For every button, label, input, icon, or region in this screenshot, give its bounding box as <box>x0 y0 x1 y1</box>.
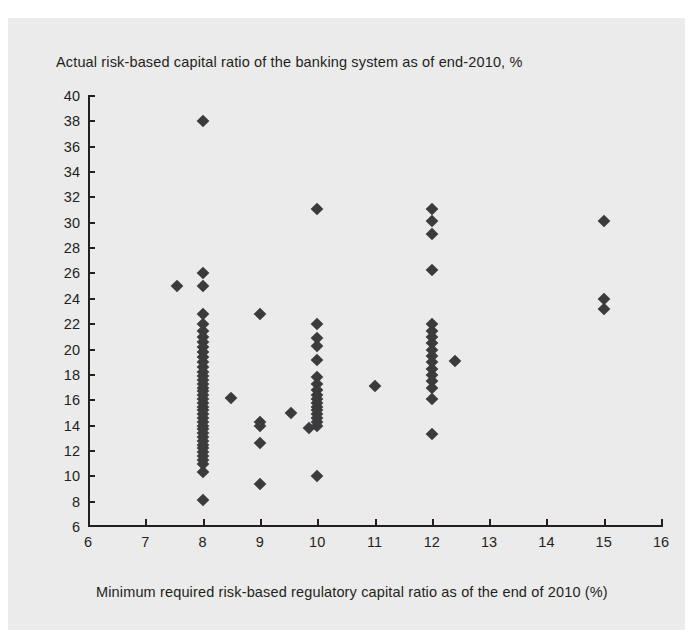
y-tick-label-22: 22 <box>64 316 80 332</box>
y-tick-label-10: 10 <box>64 468 80 484</box>
y-tick-label-24: 24 <box>64 291 80 307</box>
y-tick-label-14: 14 <box>64 418 80 434</box>
x-tick-label-16: 16 <box>653 534 669 550</box>
x-tick-label-10: 10 <box>309 534 325 550</box>
x-tick-label-9: 9 <box>256 534 264 550</box>
figure-root: Actual risk-based capital ratio of the b… <box>0 0 693 639</box>
x-tick-label-11: 11 <box>367 534 382 550</box>
x-tick-label-6: 6 <box>84 534 92 550</box>
y-tick-label-36: 36 <box>64 139 80 155</box>
y-tick-label-30: 30 <box>64 215 80 231</box>
y-tick-label-12: 12 <box>64 443 80 459</box>
y-tick-label-16: 16 <box>64 392 80 408</box>
y-axis-labels: 6810121416182022242628303234363840 <box>36 96 80 527</box>
y-tick-label-32: 32 <box>64 189 80 205</box>
x-tick-mark-16 <box>661 519 663 527</box>
x-tick-label-8: 8 <box>199 534 207 550</box>
x-tick-mark-13 <box>489 519 491 527</box>
y-tick-label-18: 18 <box>64 367 80 383</box>
x-tick-mark-15 <box>604 519 606 527</box>
x-axis-title: Minimum required risk-based regulatory c… <box>96 584 608 600</box>
x-axis-ticks <box>88 96 661 527</box>
y-tick-label-6: 6 <box>72 519 80 535</box>
x-tick-label-14: 14 <box>538 534 554 550</box>
y-tick-label-20: 20 <box>64 342 80 358</box>
chart-title: Actual risk-based capital ratio of the b… <box>56 54 523 70</box>
x-tick-mark-12 <box>432 519 434 527</box>
y-tick-label-28: 28 <box>64 240 80 256</box>
x-tick-mark-9 <box>260 519 262 527</box>
y-tick-label-8: 8 <box>72 494 80 510</box>
x-tick-mark-14 <box>546 519 548 527</box>
x-tick-label-12: 12 <box>424 534 440 550</box>
x-tick-mark-7 <box>145 519 147 527</box>
x-tick-label-7: 7 <box>141 534 149 550</box>
x-axis-labels: 678910111213141516 <box>88 534 661 558</box>
y-tick-label-26: 26 <box>64 265 80 281</box>
y-tick-label-40: 40 <box>64 88 80 104</box>
plot-area <box>88 96 661 527</box>
x-tick-mark-10 <box>317 519 319 527</box>
x-tick-label-13: 13 <box>481 534 497 550</box>
x-tick-mark-11 <box>375 519 377 527</box>
x-tick-label-15: 15 <box>596 534 612 550</box>
y-tick-label-34: 34 <box>64 164 80 180</box>
y-tick-label-38: 38 <box>64 113 80 129</box>
x-tick-mark-8 <box>203 519 205 527</box>
